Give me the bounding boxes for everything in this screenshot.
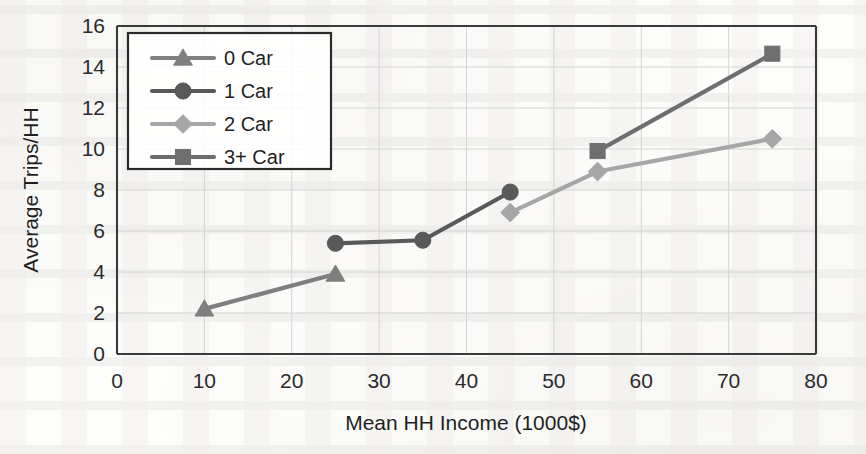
data-point-marker-circle — [415, 232, 431, 248]
legend-item-label: 0 Car — [224, 47, 273, 69]
data-point-marker-diamond — [763, 129, 782, 148]
y-tick-label: 14 — [82, 55, 106, 78]
y-tick-label: 0 — [93, 342, 105, 365]
series-0-car — [195, 265, 345, 316]
y-axis-title: Average Trips/HH — [19, 107, 42, 272]
x-tick-label: 70 — [717, 369, 740, 392]
x-tick-label: 30 — [367, 369, 390, 392]
line-chart-figure: 0246810121416 01020304050607080 Mean HH … — [0, 0, 866, 454]
data-point-marker-diamond — [588, 162, 607, 181]
y-tick-label: 4 — [93, 260, 105, 283]
chart-svg: 0246810121416 01020304050607080 Mean HH … — [0, 0, 866, 454]
y-tick-label: 6 — [93, 219, 105, 242]
x-tick-label: 0 — [111, 369, 123, 392]
series-line — [598, 54, 773, 151]
series-line — [204, 274, 335, 309]
x-tick-label: 50 — [542, 369, 565, 392]
x-tick-labels: 01020304050607080 — [111, 369, 828, 392]
data-point-marker-triangle — [326, 265, 345, 281]
data-point-marker-square — [590, 144, 605, 159]
y-tick-label: 2 — [93, 301, 105, 324]
data-point-marker-square — [175, 149, 190, 164]
x-tick-label: 10 — [193, 369, 216, 392]
y-tick-label: 16 — [82, 14, 105, 37]
y-tick-label: 12 — [82, 96, 105, 119]
x-tick-label: 20 — [280, 369, 303, 392]
legend-item-label: 2 Car — [224, 113, 273, 135]
series-1-car — [327, 184, 518, 251]
y-tick-label: 8 — [93, 178, 105, 201]
y-tick-labels: 0246810121416 — [82, 14, 106, 365]
legend-item-label: 1 Car — [224, 80, 273, 102]
legend-item-label: 3+ Car — [224, 146, 285, 168]
data-point-marker-square — [765, 46, 780, 61]
data-point-marker-circle — [502, 184, 518, 200]
data-point-marker-diamond — [501, 203, 520, 222]
x-axis-title: Mean HH Income (1000$) — [345, 411, 587, 434]
x-tick-label: 80 — [804, 369, 827, 392]
x-tick-label: 60 — [630, 369, 653, 392]
data-point-marker-circle — [175, 83, 191, 99]
y-tick-label: 10 — [82, 137, 105, 160]
legend: 0 Car1 Car2 Car3+ Car — [128, 33, 331, 169]
data-point-marker-circle — [327, 235, 343, 251]
x-tick-label: 40 — [455, 369, 478, 392]
